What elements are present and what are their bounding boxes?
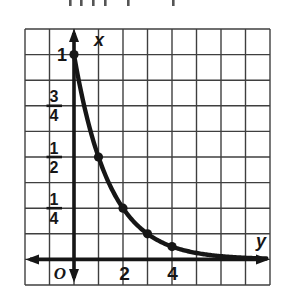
scan-artifact-marks [69, 0, 175, 6]
fraction-numerator: 3 [50, 88, 59, 105]
horizontal-axis-left-arrowhead [26, 254, 40, 264]
fraction-numerator: 1 [50, 191, 59, 208]
scan-artifact-mark [69, 0, 72, 6]
data-point [94, 152, 103, 161]
fraction-denominator: 2 [50, 159, 59, 176]
vertical-axis-down-arrowhead [69, 269, 79, 283]
horizontal-axis-label: y [255, 231, 267, 251]
scan-artifact-mark [104, 0, 107, 6]
vertical-tick-label-three-fourths: 3 4 [47, 88, 63, 124]
vertical-tick-label-1: 1 [57, 45, 67, 65]
graph-figure: x y O 1 3 4 1 2 1 4 2 4 [0, 0, 288, 303]
data-point [118, 204, 127, 213]
origin-label: O [54, 264, 66, 283]
vertical-axis-label: x [93, 30, 105, 50]
horizontal-tick-label-2: 2 [119, 263, 130, 284]
fraction-numerator: 1 [50, 140, 59, 157]
data-point [69, 50, 78, 59]
scan-artifact-mark [127, 0, 130, 6]
fraction-denominator: 4 [50, 107, 59, 124]
data-point [167, 242, 176, 251]
exponential-decay-graph-canvas: x y O 1 3 4 1 2 1 4 2 4 [0, 0, 288, 303]
data-point [143, 229, 152, 238]
scan-artifact-mark [92, 0, 95, 6]
vertical-tick-label-one-fourth: 1 4 [47, 191, 63, 227]
vertical-tick-label-one-half: 1 2 [47, 140, 63, 176]
scan-artifact-mark [172, 0, 175, 6]
scan-artifact-mark [80, 0, 83, 6]
vertical-axis-up-arrowhead [69, 29, 79, 43]
fraction-denominator: 4 [50, 210, 59, 227]
horizontal-tick-label-4: 4 [167, 263, 178, 284]
